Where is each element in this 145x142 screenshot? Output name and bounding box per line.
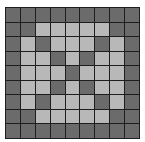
- board-cell-r8-c4[interactable]: [66, 124, 80, 138]
- board-cell-r4-c6[interactable]: [95, 66, 109, 80]
- board-cell-r3-c8[interactable]: [125, 52, 139, 66]
- board-cell-r3-c5[interactable]: [80, 52, 94, 66]
- board-cell-r3-c2[interactable]: [36, 52, 50, 66]
- board-cell-r0-c7[interactable]: [110, 8, 124, 22]
- board-cell-r7-c3[interactable]: [51, 110, 65, 124]
- board-cell-r6-c1[interactable]: [21, 95, 35, 109]
- board-cell-r2-c5[interactable]: [80, 37, 94, 51]
- board-cell-r0-c8[interactable]: [125, 8, 139, 22]
- board-cell-r5-c5[interactable]: [80, 81, 94, 95]
- board-cell-r4-c8[interactable]: [125, 66, 139, 80]
- board-cell-r2-c6[interactable]: [95, 37, 109, 51]
- board-cell-r6-c4[interactable]: [66, 95, 80, 109]
- board-cell-r8-c1[interactable]: [21, 124, 35, 138]
- board-cell-r1-c8[interactable]: [125, 23, 139, 37]
- board-cell-r7-c1[interactable]: [21, 110, 35, 124]
- board-cell-r8-c8[interactable]: [125, 124, 139, 138]
- board-cell-r7-c8[interactable]: [125, 110, 139, 124]
- board-cell-r6-c2[interactable]: [36, 95, 50, 109]
- board-cell-r2-c3[interactable]: [51, 37, 65, 51]
- board-cell-r6-c6[interactable]: [95, 95, 109, 109]
- board-cell-r4-c4[interactable]: [66, 66, 80, 80]
- board-cell-r1-c4[interactable]: [66, 23, 80, 37]
- board-cell-r5-c8[interactable]: [125, 81, 139, 95]
- board-cell-r8-c7[interactable]: [110, 124, 124, 138]
- board-cell-r6-c3[interactable]: [51, 95, 65, 109]
- board-cell-r5-c4[interactable]: [66, 81, 80, 95]
- board-cell-r5-c3[interactable]: [51, 81, 65, 95]
- game-board: [5, 7, 140, 139]
- board-cell-r3-c7[interactable]: [110, 52, 124, 66]
- board-cell-r1-c7[interactable]: [110, 23, 124, 37]
- board-cell-r1-c0[interactable]: [6, 23, 20, 37]
- board-cell-r0-c6[interactable]: [95, 8, 109, 22]
- board-cell-r1-c2[interactable]: [36, 23, 50, 37]
- board-cell-r2-c7[interactable]: [110, 37, 124, 51]
- board-cell-r7-c4[interactable]: [66, 110, 80, 124]
- board-cell-r0-c1[interactable]: [21, 8, 35, 22]
- board-cell-r6-c8[interactable]: [125, 95, 139, 109]
- board-cell-r6-c7[interactable]: [110, 95, 124, 109]
- board-cell-r1-c6[interactable]: [95, 23, 109, 37]
- board-cell-r8-c3[interactable]: [51, 124, 65, 138]
- board-cell-r5-c1[interactable]: [21, 81, 35, 95]
- board-cell-r0-c5[interactable]: [80, 8, 94, 22]
- board-cell-r7-c5[interactable]: [80, 110, 94, 124]
- board-cell-r2-c1[interactable]: [21, 37, 35, 51]
- board-cell-r3-c1[interactable]: [21, 52, 35, 66]
- board-cell-r1-c5[interactable]: [80, 23, 94, 37]
- board-cell-r7-c2[interactable]: [36, 110, 50, 124]
- board-cell-r6-c5[interactable]: [80, 95, 94, 109]
- board-cell-r8-c5[interactable]: [80, 124, 94, 138]
- board-cell-r1-c3[interactable]: [51, 23, 65, 37]
- board-cell-r3-c4[interactable]: [66, 52, 80, 66]
- board-cell-r5-c2[interactable]: [36, 81, 50, 95]
- board-cell-r7-c0[interactable]: [6, 110, 20, 124]
- board-cell-r8-c2[interactable]: [36, 124, 50, 138]
- board-cell-r0-c2[interactable]: [36, 8, 50, 22]
- board-cell-r2-c2[interactable]: [36, 37, 50, 51]
- board-cell-r4-c1[interactable]: [21, 66, 35, 80]
- board-cell-r3-c3[interactable]: [51, 52, 65, 66]
- board-cell-r4-c2[interactable]: [36, 66, 50, 80]
- board-cell-r4-c0[interactable]: [6, 66, 20, 80]
- board-cell-r7-c7[interactable]: [110, 110, 124, 124]
- board-cell-r2-c4[interactable]: [66, 37, 80, 51]
- board-cell-r2-c0[interactable]: [6, 37, 20, 51]
- board-cell-r5-c6[interactable]: [95, 81, 109, 95]
- board-cell-r5-c7[interactable]: [110, 81, 124, 95]
- board-cell-r4-c5[interactable]: [80, 66, 94, 80]
- board-cell-r6-c0[interactable]: [6, 95, 20, 109]
- board-cell-r3-c0[interactable]: [6, 52, 20, 66]
- board-cell-r0-c0[interactable]: [6, 8, 20, 22]
- board-cell-r4-c3[interactable]: [51, 66, 65, 80]
- board-cell-r0-c4[interactable]: [66, 8, 80, 22]
- board-cell-r2-c8[interactable]: [125, 37, 139, 51]
- board-cell-r0-c3[interactable]: [51, 8, 65, 22]
- board-cell-r4-c7[interactable]: [110, 66, 124, 80]
- board-cell-r7-c6[interactable]: [95, 110, 109, 124]
- board-cell-r1-c1[interactable]: [21, 23, 35, 37]
- board-cell-r8-c6[interactable]: [95, 124, 109, 138]
- board-cell-r8-c0[interactable]: [6, 124, 20, 138]
- board-cell-r3-c6[interactable]: [95, 52, 109, 66]
- board-cell-r5-c0[interactable]: [6, 81, 20, 95]
